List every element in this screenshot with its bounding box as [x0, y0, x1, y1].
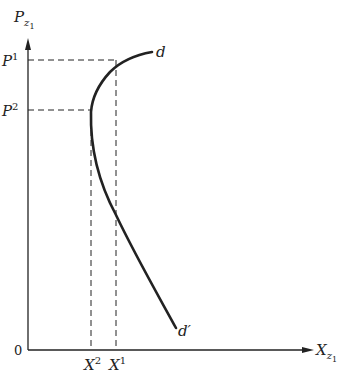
- y-tick-p2: P2: [1, 101, 18, 120]
- guide-lines: [28, 60, 116, 350]
- origin-label: 0: [14, 343, 22, 358]
- diagram-canvas: Pz1 Xz1 0 P1 P2 X2 X1 d d′: [0, 0, 345, 375]
- curve-label-d: d: [156, 43, 166, 61]
- y-axis-label: Pz1: [13, 8, 34, 31]
- y-tick-p1: P1: [1, 51, 18, 70]
- curve-label-d-prime: d′: [178, 322, 192, 340]
- x-tick-x2: X2: [83, 355, 101, 374]
- x-axis-arrow-icon: [302, 347, 314, 353]
- demand-curve: [91, 52, 176, 328]
- x-axis-label: Xz1: [315, 341, 337, 364]
- x-tick-x1: X1: [108, 355, 126, 374]
- y-axis-arrow-icon: [25, 38, 31, 50]
